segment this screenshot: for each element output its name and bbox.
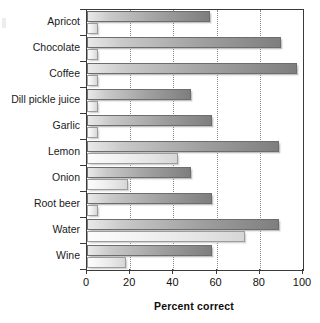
bar-lower — [87, 205, 98, 216]
bar-upper — [87, 141, 279, 152]
x-tick-label-80: 80 — [239, 276, 279, 288]
plot-inner — [87, 10, 303, 270]
x-tick-0 — [86, 269, 87, 274]
bar-group — [87, 11, 303, 37]
bar-chart: ApricotChocolateCoffeeDill pickle juiceG… — [0, 0, 320, 323]
bar-upper — [87, 63, 297, 74]
bar-group — [87, 37, 303, 63]
x-tick-label-60: 60 — [196, 276, 236, 288]
bar-upper — [87, 37, 281, 48]
y-axis-label-chocolate: Chocolate — [0, 42, 80, 53]
bar-lower — [87, 257, 126, 268]
bar-lower — [87, 231, 245, 242]
y-axis-label-onion: Onion — [0, 172, 80, 183]
x-tick-40 — [172, 269, 173, 274]
bar-lower — [87, 153, 178, 164]
bar-upper — [87, 115, 212, 126]
bar-lower — [87, 49, 98, 60]
x-axis-title: Percent correct — [86, 300, 302, 312]
bar-upper — [87, 167, 191, 178]
bar-lower — [87, 127, 98, 138]
bar-lower — [87, 75, 98, 86]
x-tick-60 — [216, 269, 217, 274]
bar-upper — [87, 245, 212, 256]
bar-group — [87, 141, 303, 167]
y-axis-label-lemon: Lemon — [0, 146, 80, 157]
y-axis-label-dill-pickle-juice: Dill pickle juice — [0, 94, 80, 105]
y-axis-label-water: Water — [0, 224, 80, 235]
bar-group — [87, 89, 303, 115]
x-tick-label-40: 40 — [152, 276, 192, 288]
bar-upper — [87, 219, 279, 230]
y-axis-label-garlic: Garlic — [0, 120, 80, 131]
y-axis-label-coffee: Coffee — [0, 68, 80, 79]
bar-group — [87, 167, 303, 193]
x-tick-20 — [129, 269, 130, 274]
bar-group — [87, 193, 303, 219]
y-axis-label-wine: Wine — [0, 250, 80, 261]
x-tick-label-100: 100 — [282, 276, 320, 288]
x-tick-label-20: 20 — [109, 276, 149, 288]
bar-upper — [87, 193, 212, 204]
bar-group — [87, 63, 303, 89]
y-axis-label-root-beer: Root beer — [0, 198, 80, 209]
bar-group — [87, 115, 303, 141]
bar-lower — [87, 179, 128, 190]
bar-lower — [87, 101, 98, 112]
y-axis-label-apricot: Apricot — [0, 16, 80, 27]
bar-group — [87, 245, 303, 270]
x-tick-100 — [302, 269, 303, 274]
x-tick-80 — [259, 269, 260, 274]
bar-group — [87, 219, 303, 245]
x-tick-label-0: 0 — [66, 276, 106, 288]
plot-area — [86, 9, 304, 271]
bar-lower — [87, 23, 98, 34]
bar-upper — [87, 89, 191, 100]
bar-upper — [87, 11, 210, 22]
